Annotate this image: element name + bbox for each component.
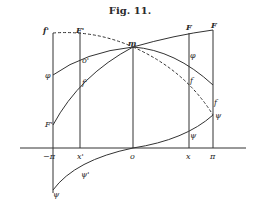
label-F-prime-lower: F' <box>44 120 53 129</box>
axis-label-pi: π <box>209 152 216 161</box>
label-psi: ψ <box>190 131 197 140</box>
label-f-lower: f' <box>81 78 87 87</box>
label-psi-prime: ψ' <box>81 170 89 179</box>
curve-phi-left <box>53 47 133 75</box>
label-psi-left: ψ <box>53 190 60 199</box>
axis-label-x-prime: x' <box>77 152 84 161</box>
axis-label-neg-pi: −π <box>43 152 56 161</box>
axis-label-origin: o <box>130 152 135 161</box>
label-o-prime: ο' <box>82 56 89 65</box>
curve-F-prime <box>53 47 133 125</box>
label-phi-left: φ <box>45 71 51 80</box>
label-f-right: f <box>213 98 219 107</box>
figure-diagram: f' F' m F F φ ο' φ f' f f F' ψ ψ ψ' ψ −π… <box>0 0 260 206</box>
label-m: m <box>128 38 136 48</box>
label-f-prime: f' <box>42 25 49 35</box>
curve-f-prime-dashed <box>53 33 133 47</box>
axis-label-x: x <box>186 152 191 161</box>
label-F-prime-top: F' <box>75 25 84 35</box>
label-F-2: F <box>210 20 218 30</box>
curve-F <box>133 30 213 47</box>
label-f-mid: f <box>189 76 195 85</box>
label-F-1: F <box>185 22 193 32</box>
label-psi-end: ψ <box>215 111 222 120</box>
curve-phi-right <box>133 47 213 85</box>
label-phi-right: φ <box>190 51 196 60</box>
